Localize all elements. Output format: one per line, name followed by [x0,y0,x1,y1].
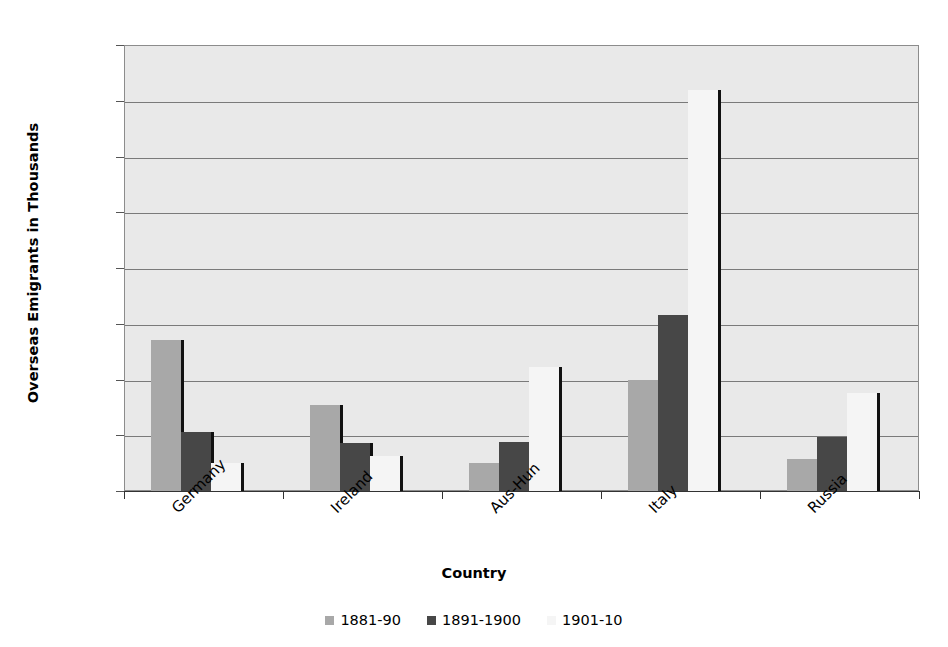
bar [151,340,181,491]
y-axis-tick-mark [116,157,124,158]
legend-label: 1891-1900 [442,612,521,628]
x-axis-tick-mark [442,491,443,499]
legend-label: 1901-10 [562,612,623,628]
x-axis-tick-mark [601,491,602,499]
legend-label: 1881-90 [340,612,401,628]
bar [787,459,817,491]
y-axis-tick-mark [116,380,124,381]
bars-layer [124,45,919,491]
bar [658,315,688,491]
y-axis-title: Overseas Emigrants in Thousands [25,113,41,413]
y-axis-tick-mark [116,101,124,102]
x-axis-tick-mark [124,491,125,499]
bar [310,405,340,491]
bar [628,380,658,492]
legend-item: 1881-90 [325,612,401,628]
y-axis-tick-mark [116,212,124,213]
legend-swatch-icon [427,616,436,625]
x-axis-tick-mark [919,491,920,499]
bar-edge-shadow [400,456,403,491]
bar [688,90,718,491]
legend-swatch-icon [547,616,556,625]
bar-chart: Overseas Emigrants in Thousands 05001000… [0,0,948,647]
y-axis-tick-mark [116,491,124,492]
bar-edge-shadow [718,90,721,491]
bar-edge-shadow [241,463,244,491]
y-axis-tick-mark [116,268,124,269]
legend-item: 1901-10 [547,612,623,628]
bar [847,393,877,491]
bar [469,463,499,491]
y-axis-tick-mark [116,435,124,436]
x-axis-tick-mark [283,491,284,499]
x-axis-title: Country [0,565,948,581]
legend-item: 1891-1900 [427,612,521,628]
x-axis-tick-mark [760,491,761,499]
legend-swatch-icon [325,616,334,625]
y-axis-tick-mark [116,324,124,325]
y-axis-tick-mark [116,45,124,46]
bar-edge-shadow [877,393,880,491]
bar-edge-shadow [559,367,562,491]
legend: 1881-901891-19001901-10 [0,612,948,628]
bar [370,456,400,491]
